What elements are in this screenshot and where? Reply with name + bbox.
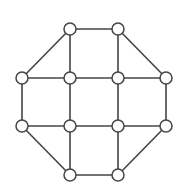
node-n8: [112, 120, 124, 132]
graph-edges: [22, 29, 166, 175]
node-n9: [160, 120, 172, 132]
octagon-grid-graph: [0, 0, 190, 195]
node-n5: [160, 72, 172, 84]
node-n10: [64, 169, 76, 181]
node-n0: [64, 23, 76, 35]
edge-n6-n10: [22, 126, 70, 175]
node-n11: [112, 169, 124, 181]
edge-n1-n5: [118, 29, 166, 78]
node-n4: [112, 72, 124, 84]
node-n3: [64, 72, 76, 84]
node-n2: [16, 72, 28, 84]
graph-nodes: [16, 23, 172, 181]
node-n1: [112, 23, 124, 35]
edge-n0-n2: [22, 29, 70, 78]
node-n7: [64, 120, 76, 132]
node-n6: [16, 120, 28, 132]
edge-n9-n11: [118, 126, 166, 175]
